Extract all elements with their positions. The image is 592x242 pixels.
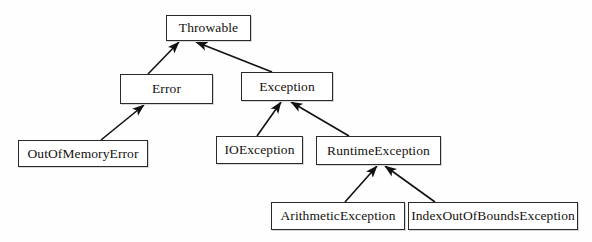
class-name-throwable: Throwable	[173, 21, 244, 35]
class-box-exception[interactable]: Exception	[241, 72, 333, 101]
edge-indexoutofboundsexception-to-runtimeexception	[385, 166, 435, 202]
class-box-outofmemoryerror[interactable]: OutOfMemoryError	[18, 140, 148, 167]
class-box-ioexception[interactable]: IOException	[216, 136, 303, 164]
edge-exception-to-throwable	[196, 42, 272, 72]
edge-outofmemoryerror-to-error	[101, 105, 144, 140]
class-name-error: Error	[146, 82, 187, 96]
inheritance-edges	[101, 42, 435, 202]
class-name-ioexception: IOException	[218, 143, 300, 157]
class-box-throwable[interactable]: Throwable	[166, 15, 251, 41]
class-box-arithmeticexception[interactable]: ArithmeticException	[271, 202, 405, 230]
class-name-runtimeexception: RuntimeException	[321, 144, 436, 158]
class-name-exception: Exception	[253, 80, 321, 94]
class-box-error[interactable]: Error	[120, 74, 213, 104]
edge-ioexception-to-exception	[257, 102, 281, 136]
class-name-outofmemoryerror: OutOfMemoryError	[21, 147, 144, 161]
class-box-runtimeexception[interactable]: RuntimeException	[316, 136, 441, 165]
class-hierarchy-diagram: Throwable Error Exception OutOfMemoryErr…	[0, 0, 592, 242]
edge-arithmeticexception-to-runtimeexception	[345, 166, 377, 202]
class-name-arithmeticexception: ArithmeticException	[274, 209, 401, 223]
edge-error-to-throwable	[148, 42, 179, 74]
class-name-indexoutofboundsexception: IndexOutOfBoundsException	[405, 209, 581, 223]
class-box-indexoutofboundsexception[interactable]: IndexOutOfBoundsException	[408, 202, 578, 230]
edge-runtimeexception-to-exception	[291, 102, 349, 136]
